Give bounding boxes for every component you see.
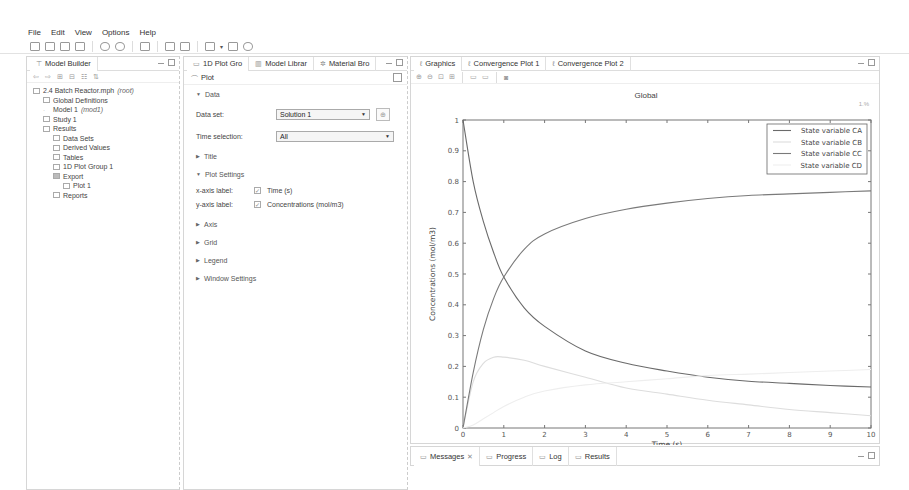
time-selection-select[interactable]: All ▼ (276, 131, 394, 142)
x-axis-label-value[interactable]: Time (s) (267, 187, 292, 194)
collapsed-icon: ▶ (196, 275, 200, 281)
legend-entry: State variable CB (801, 139, 862, 147)
study-icon (43, 116, 50, 122)
back-icon[interactable]: ⇦ (33, 73, 39, 81)
forward-icon[interactable]: ⇨ (45, 73, 51, 81)
tab-label: Model Librar (265, 59, 307, 68)
y-tick-label: 0.3 (448, 332, 459, 340)
tree-suffix: (root) (117, 87, 134, 94)
menu-options[interactable]: Options (102, 28, 130, 37)
tab-label: Log (549, 452, 562, 461)
undo-icon[interactable] (100, 42, 110, 51)
tree-item-derived-values[interactable]: Derived Values (27, 143, 179, 153)
tab-1d-plot-group[interactable]: ▭ 1D Plot Gro (187, 57, 249, 71)
print-icon[interactable] (75, 42, 85, 51)
sort-icon[interactable]: ⇅ (93, 73, 99, 81)
tree-item-tables[interactable]: Tables (27, 153, 179, 163)
section-label: Data (205, 91, 220, 98)
section-window-settings[interactable]: ▶ Window Settings (184, 269, 407, 287)
tree-item-plot1[interactable]: Plot 1 (27, 181, 179, 191)
new-icon[interactable] (30, 42, 40, 51)
series-line (463, 191, 871, 428)
data-set-go-to-button[interactable]: ⊕ (376, 108, 390, 121)
plot-button-icon[interactable] (393, 73, 402, 82)
save-icon[interactable] (60, 42, 70, 51)
messages-panel: ▭ Messages ✕ ▭ Progress ▭ Log ▭ Results (410, 446, 880, 466)
menu-file[interactable]: File (28, 28, 41, 37)
expand-icon[interactable]: ⊞ (57, 73, 63, 81)
minimize-icon[interactable] (386, 63, 392, 65)
tab-model-library[interactable]: ▥ Model Librar (249, 57, 314, 71)
maximize-icon[interactable] (168, 59, 175, 66)
library-icon: ▥ (255, 60, 262, 68)
x-tick-label: 0 (461, 431, 465, 439)
time-selection-row: Time selection: All ▼ (184, 125, 407, 147)
tree-label: 1D Plot Group 1 (63, 163, 113, 170)
tree-label: Global Definitions (53, 97, 108, 104)
tree-item-root[interactable]: 2.4 Batch Reactor.mph (root) (27, 86, 179, 96)
graphics-panel: ℓ Graphics ℓ Convergence Plot 1 ℓ Conver… (410, 56, 880, 444)
settings-tabs: ▭ 1D Plot Gro ▥ Model Librar ✲ Material … (184, 57, 407, 71)
maximize-icon[interactable] (396, 59, 403, 66)
window-icon[interactable] (165, 42, 175, 51)
section-grid[interactable]: ▶ Grid (184, 233, 407, 251)
tree-item-study[interactable]: Study 1 (27, 115, 179, 125)
menu-edit[interactable]: Edit (51, 28, 65, 37)
y-tick-label: 0.4 (448, 301, 460, 309)
window2-icon[interactable] (180, 42, 190, 51)
tree-label: Derived Values (63, 144, 110, 151)
minimize-icon[interactable] (858, 456, 864, 458)
minimize-icon[interactable] (158, 63, 164, 65)
tree-item-model[interactable]: · Model 1 (mod1) (27, 105, 179, 115)
y-tick-label: 0.7 (448, 209, 459, 217)
collapsed-icon: ▶ (196, 257, 200, 263)
build-icon[interactable] (140, 42, 150, 51)
tree-suffix: (mod1) (81, 106, 103, 113)
collapse-icon[interactable]: ⊟ (69, 73, 75, 81)
redo-icon[interactable] (115, 42, 125, 51)
settings-panel: ▭ 1D Plot Gro ▥ Model Librar ✲ Material … (183, 56, 408, 490)
tree-item-export[interactable]: Export (27, 172, 179, 182)
tree-item-1d-plot-group[interactable]: 1D Plot Group 1 (27, 162, 179, 172)
data-sets-icon (53, 135, 60, 141)
open-icon[interactable] (45, 42, 55, 51)
y-tick-label: 0.2 (448, 363, 459, 371)
camera-icon[interactable] (243, 42, 253, 51)
data-set-select[interactable]: Solution 1 ▼ (276, 109, 370, 120)
collapsed-icon: ▶ (196, 153, 200, 159)
tab-model-builder[interactable]: ⊤ Model Builder (30, 57, 98, 71)
section-plot-settings[interactable]: ▼ Plot Settings (184, 165, 407, 183)
close-icon[interactable]: ✕ (467, 453, 473, 461)
tab-results[interactable]: ▭ Results (569, 447, 617, 466)
tab-log[interactable]: ▭ Log (533, 447, 569, 466)
section-legend[interactable]: ▶ Legend (184, 251, 407, 269)
y-axis-label: y-axis label: (196, 201, 254, 208)
tree-item-results[interactable]: Results (27, 124, 179, 134)
tab-progress[interactable]: ▭ Progress (480, 447, 533, 466)
section-axis[interactable]: ▶ Axis (184, 215, 407, 233)
log-icon: ▭ (539, 453, 546, 461)
menu-help[interactable]: Help (139, 28, 155, 37)
tree-item-reports[interactable]: Reports (27, 191, 179, 201)
section-title[interactable]: ▶ Title (184, 147, 407, 165)
section-data[interactable]: ▼ Data (184, 85, 407, 103)
line-chart[interactable]: 01234567891000.10.20.30.40.50.60.70.80.9… (411, 57, 881, 445)
y-axis-label-checkbox[interactable]: ✓ (254, 201, 261, 208)
view-icon[interactable] (228, 42, 238, 51)
y-axis-label-value[interactable]: Concentrations (mol/m3) (267, 201, 344, 208)
tree-item-data-sets[interactable]: Data Sets (27, 134, 179, 144)
tab-messages[interactable]: ▭ Messages ✕ (414, 447, 480, 466)
menu-view[interactable]: View (75, 28, 92, 37)
x-axis-label-checkbox[interactable]: ✓ (254, 187, 261, 194)
section-label: Window Settings (204, 275, 256, 282)
main-toolbar: ▾ (0, 40, 909, 54)
maximize-icon[interactable] (868, 452, 875, 459)
show-icon[interactable]: ☷ (81, 73, 87, 81)
tree-item-global-definitions[interactable]: Global Definitions (27, 96, 179, 106)
dropdown-icon[interactable]: ▾ (220, 43, 223, 50)
section-label: Axis (204, 221, 217, 228)
select-value: All (280, 133, 288, 140)
legend-entry: State variable CD (801, 162, 863, 170)
compute-icon[interactable] (205, 42, 215, 51)
tab-material-browser[interactable]: ✲ Material Bro (314, 57, 376, 71)
